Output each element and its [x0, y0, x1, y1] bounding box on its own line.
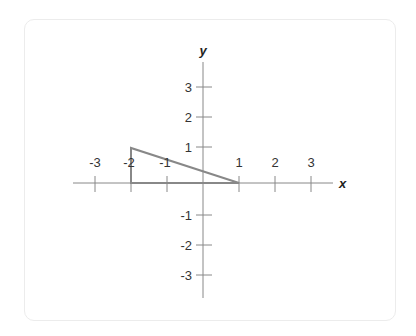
y-tick-label: 2: [185, 110, 192, 125]
x-tick-label: -3: [89, 155, 101, 170]
y-axis-label: y: [198, 43, 207, 58]
y-ticks: [196, 87, 212, 275]
x-tick-label: -2: [123, 155, 135, 170]
x-axis-label: x: [338, 176, 347, 191]
y-tick-label: -1: [180, 208, 192, 223]
coordinate-plane: -3 -2 -1 1 2 3 3 2 1 -1 -2 -3 x y: [0, 0, 416, 336]
x-tick-label: 2: [271, 155, 278, 170]
y-tick-label: -2: [180, 238, 192, 253]
x-tick-label: -1: [159, 155, 171, 170]
x-tick-label: 1: [235, 155, 242, 170]
x-tick-label: 3: [307, 155, 314, 170]
y-tick-label: -3: [180, 268, 192, 283]
y-tick-label: 3: [185, 80, 192, 95]
y-tick-label: 1: [185, 140, 192, 155]
